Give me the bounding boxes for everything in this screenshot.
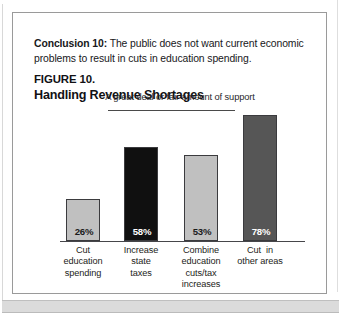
bar[interactable]: 53% [184,155,218,241]
conclusion-lead-in: Conclusion 10: [34,38,107,49]
document-page: Conclusion 10: The public does not want … [0,0,343,313]
scan-bottom-strip [2,300,339,313]
figure-number-label: FIGURE 10. [34,73,95,85]
bar[interactable]: 78% [243,115,277,241]
bar-chart: A great deal or fair amount of support 2… [12,92,327,292]
axis-baseline [60,241,305,242]
conclusion-paragraph: Conclusion 10: The public does not want … [34,37,310,65]
bar[interactable]: 26% [66,199,100,241]
category-label: Cut inother areas [217,245,303,268]
bar-slot: 53% [184,155,218,241]
bar-value-label: 53% [185,226,219,237]
bar-value-label: 26% [67,226,101,237]
chart-subtitle: A great deal or fair amount of support [58,92,302,102]
bar-value-label: 78% [244,226,278,237]
bar-value-label: 58% [125,226,159,237]
bar[interactable]: 58% [124,147,158,241]
plot-area: 26%58%53%78% [12,108,327,241]
scan-right-edge [337,0,338,292]
bar-slot: 58% [124,147,158,241]
bar-slot: 26% [66,199,100,241]
scan-left-edge [2,4,3,300]
bar-slot: 78% [243,115,277,241]
